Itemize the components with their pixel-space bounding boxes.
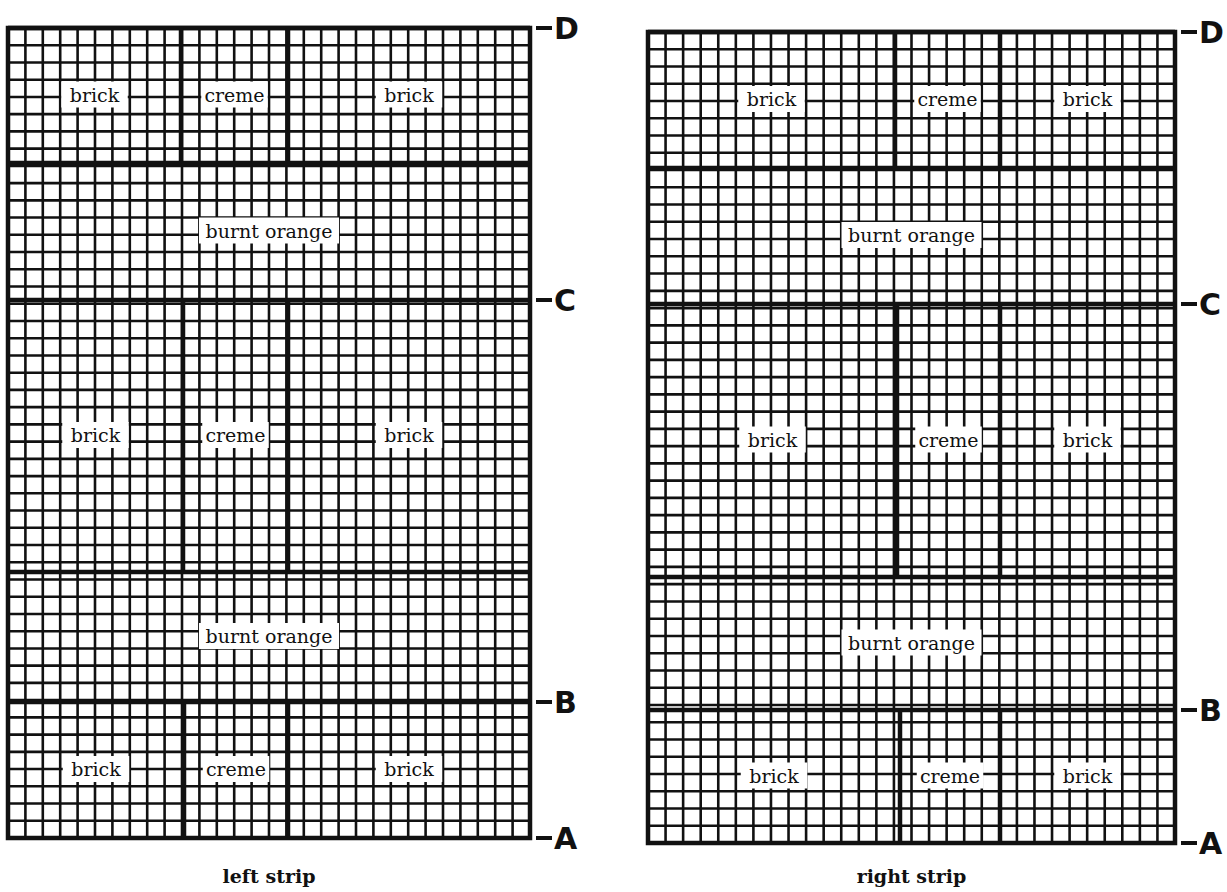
crochet-pattern-diagram: brickcremebrickburnt orangebrickcremebri…: [0, 0, 1227, 892]
right-strip-caption: right strip: [857, 865, 967, 887]
color-label: brick: [1063, 429, 1113, 451]
color-label: creme: [918, 429, 978, 451]
color-label: brick: [748, 429, 798, 451]
color-label: brick: [71, 758, 121, 780]
color-label: brick: [70, 84, 120, 106]
left-strip-caption: left strip: [223, 865, 316, 887]
color-label: brick: [749, 765, 799, 787]
color-label: creme: [205, 424, 265, 446]
marker-c: C: [554, 283, 576, 318]
marker-c: C: [1199, 287, 1221, 322]
color-label: brick: [71, 424, 121, 446]
color-label: creme: [206, 758, 266, 780]
marker-b: B: [1199, 693, 1222, 728]
marker-d: D: [1199, 15, 1224, 50]
color-label: burnt orange: [206, 625, 333, 647]
color-label: brick: [1063, 88, 1113, 110]
marker-d: D: [554, 11, 579, 46]
color-label: creme: [920, 765, 980, 787]
color-label: brick: [747, 88, 797, 110]
marker-b: B: [554, 685, 577, 720]
marker-a: A: [1199, 826, 1223, 861]
color-label: creme: [917, 88, 977, 110]
color-label: brick: [384, 424, 434, 446]
left-strip: brickcremebrickburnt orangebrickcremebri…: [8, 11, 579, 887]
color-label: brick: [384, 758, 434, 780]
color-label: burnt orange: [848, 224, 975, 246]
color-label: brick: [384, 84, 434, 106]
marker-a: A: [554, 821, 578, 856]
color-label: brick: [1063, 765, 1113, 787]
right-strip: brickcremebrickburnt orangebrickcremebri…: [648, 15, 1224, 887]
color-label: burnt orange: [848, 632, 975, 654]
color-label: burnt orange: [206, 220, 333, 242]
color-label: creme: [204, 84, 264, 106]
